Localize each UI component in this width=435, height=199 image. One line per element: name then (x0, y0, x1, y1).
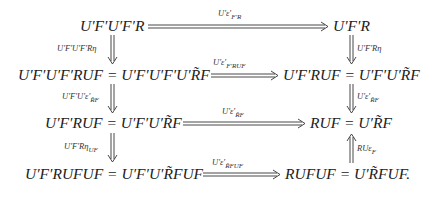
node-r1-left: U′F′U′F′R (80, 18, 144, 34)
arrow-h4 (203, 170, 280, 179)
arrow-v-right1 (347, 35, 356, 64)
label-h2: U′ε′F′RUF (213, 58, 246, 70)
label-h4: U′ε′R̃FUF (212, 158, 243, 170)
arrow-v-left3 (108, 133, 117, 162)
arrow-h2 (211, 71, 278, 80)
label-v-left1: U′F′U′F′Rη (57, 44, 97, 53)
arrow-v-left2 (108, 84, 117, 113)
arrow-v-left1 (108, 35, 117, 64)
node-r2-left: U′F′U′F′RUF = U′F′U′F′U′R̃F (18, 67, 210, 83)
label-v-right2: U′ε′R̃F (357, 92, 379, 104)
node-r3-right: RUF = U′R̃F (310, 115, 392, 131)
label-v-left3: U′F′RηUF (64, 142, 98, 154)
arrow-v-right2 (347, 84, 356, 113)
label-h3: U′ε′R̃F (222, 107, 244, 119)
label-v-right3: RUεF (357, 144, 376, 156)
node-r4-left: U′F′RUFUF = U′F′U′R̃FUF (25, 166, 203, 182)
label-h1: U′ε′F′R (218, 9, 241, 21)
node-r1-right: U′F′R (333, 18, 370, 34)
label-v-right1: U′F′Rη (357, 44, 381, 53)
node-r2-right: U′F′RUF = U′F′U′R̃F (283, 67, 420, 83)
node-r4-right: RUFUF = U′R̃FUF. (285, 166, 410, 182)
arrow-v-right3-up (347, 134, 356, 163)
node-r3-left: U′F′RUF = U′F′U′R̃F (45, 115, 182, 131)
arrow-h1 (148, 22, 328, 31)
arrow-h3 (183, 119, 305, 128)
label-v-left2: U′F′U′ε′R̃F (62, 92, 99, 104)
